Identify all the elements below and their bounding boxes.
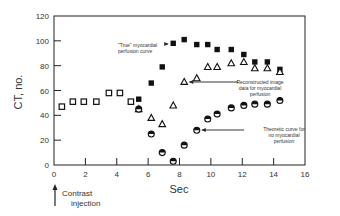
open-triangle-marker [228, 60, 235, 66]
filled-square-marker [241, 52, 246, 57]
filled-square-marker [214, 47, 219, 52]
open-square-marker [81, 99, 86, 104]
open-square-marker [94, 99, 99, 104]
open-square-marker [117, 90, 122, 95]
y-tick-label: 100 [36, 37, 50, 46]
filled-square-marker [194, 42, 199, 47]
half-filled-circle-marker [194, 127, 200, 133]
open-triangle-marker [159, 121, 166, 127]
y-tick-label: 20 [40, 136, 49, 145]
half-filled-circle-marker [181, 142, 187, 148]
theoretic-curve-label: Theoretic curve forno myocardialperfusio… [263, 126, 305, 144]
open-triangle-marker [148, 114, 155, 120]
filled-square-marker [229, 47, 234, 52]
open-square-marker [128, 99, 133, 104]
x-tick-label: 10 [206, 170, 215, 179]
theoretic-arrow-icon [202, 128, 244, 132]
open-triangle-marker [170, 102, 177, 108]
y-tick-label: 60 [40, 87, 49, 96]
contrast-label-line2: injection [62, 199, 100, 209]
half-filled-circle-marker [277, 97, 283, 103]
contrast-label-line1: Contrast [62, 189, 100, 199]
contrast-injection-label: Contrast injection [62, 189, 100, 209]
y-axis: 020406080100120 [36, 12, 61, 170]
filled-square-marker [171, 41, 176, 46]
y-axis-title: CT, no. [12, 75, 24, 110]
open-square-marker [59, 104, 64, 109]
x-tick-label: 0 [52, 170, 57, 179]
perfusion-chart: 020406080100120 0246810121416 "True" myo… [0, 0, 340, 216]
half-filled-circle-marker [252, 101, 258, 107]
open-square-marker [106, 90, 111, 95]
half-filled-circle-marker [170, 158, 176, 164]
open-triangle-marker [181, 78, 188, 84]
filled-square-marker [149, 80, 154, 85]
y-tick-label: 40 [40, 111, 49, 120]
x-tick-label: 6 [146, 170, 151, 179]
open-triangle-marker [252, 65, 259, 71]
y-tick-label: 120 [36, 12, 50, 21]
filled-square-marker [205, 42, 210, 47]
half-filled-circle-marker [136, 106, 142, 112]
open-triangle-marker [193, 75, 200, 81]
half-filled-circle-marker [159, 150, 165, 156]
half-filled-circle-marker [264, 101, 270, 107]
true-curve-arrow-icon [164, 42, 168, 46]
x-axis: 0246810121416 [52, 158, 310, 179]
y-tick-label: 80 [40, 62, 49, 71]
data-points [59, 37, 283, 164]
open-triangle-marker [214, 64, 221, 70]
half-filled-circle-marker [148, 131, 154, 137]
annotations: "True" myocardialperfusion curveReconstr… [118, 42, 305, 144]
open-triangle-marker [204, 64, 211, 70]
half-filled-circle-marker [241, 102, 247, 108]
x-axis-title: Sec [170, 183, 189, 195]
half-filled-circle-marker [214, 111, 220, 117]
y-tick-label: 0 [45, 161, 50, 170]
x-tick-label: 2 [83, 170, 88, 179]
contrast-injection-arrow-icon [53, 184, 58, 206]
reconstructed-data-label: Reconstructed imagedata for myocardialpe… [236, 79, 283, 97]
open-triangle-marker [241, 59, 248, 65]
filled-square-marker [160, 64, 165, 69]
x-tick-label: 16 [301, 170, 310, 179]
half-filled-circle-marker [228, 105, 234, 111]
half-filled-circle-marker [205, 116, 211, 122]
filled-square-marker [182, 37, 187, 42]
x-tick-label: 12 [238, 170, 247, 179]
x-tick-label: 4 [115, 170, 120, 179]
open-square-marker [70, 99, 75, 104]
x-tick-label: 14 [269, 170, 278, 179]
x-tick-label: 8 [177, 170, 182, 179]
true-curve-label: "True" myocardialperfusion curve [118, 42, 157, 54]
filled-square-marker [136, 96, 141, 101]
open-triangle-marker [264, 65, 271, 71]
